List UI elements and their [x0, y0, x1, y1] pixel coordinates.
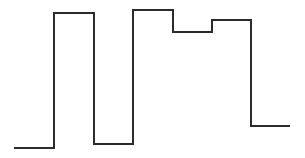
step-line-chart: [0, 0, 305, 158]
step-line-series: [14, 10, 290, 148]
